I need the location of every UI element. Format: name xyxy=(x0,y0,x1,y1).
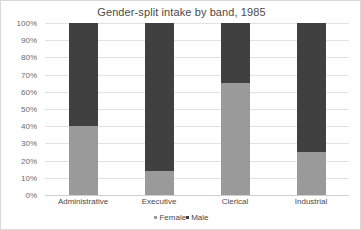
x-axis-tick-label: Clerical xyxy=(222,197,249,206)
chart-container: Gender-split intake by band, 1985 0%10%2… xyxy=(0,0,361,230)
bar-group-clerical[interactable] xyxy=(221,23,250,195)
y-axis-tick-label: 80% xyxy=(21,53,37,62)
y-axis-tick-label: 60% xyxy=(21,87,37,96)
chart-legend: FemaleMale xyxy=(1,213,361,222)
y-axis-tick-label: 90% xyxy=(21,36,37,45)
plot-area xyxy=(45,23,349,195)
gridline xyxy=(45,195,349,196)
y-axis-tick-label: 70% xyxy=(21,70,37,79)
x-axis-tick-label: Industrial xyxy=(295,197,327,206)
bar-group-executive[interactable] xyxy=(145,23,174,195)
bar-segment-female[interactable] xyxy=(145,171,174,195)
x-axis: AdministrativeExecutiveClericalIndustria… xyxy=(45,197,349,211)
bar-segment-female[interactable] xyxy=(297,152,326,195)
y-axis-tick-label: 100% xyxy=(17,19,37,28)
legend-item-male[interactable]: Male xyxy=(186,213,208,222)
y-axis-tick-label: 10% xyxy=(21,173,37,182)
legend-item-female[interactable]: Female xyxy=(154,213,186,222)
chart-title: Gender-split intake by band, 1985 xyxy=(1,6,361,18)
bar-segment-female[interactable] xyxy=(69,126,98,195)
bar-group-industrial[interactable] xyxy=(297,23,326,195)
y-axis-tick-label: 40% xyxy=(21,122,37,131)
bar-group-administrative[interactable] xyxy=(69,23,98,195)
bar-series-group xyxy=(45,23,349,195)
bar-segment-male[interactable] xyxy=(221,23,250,83)
y-axis: 0%10%20%30%40%50%60%70%80%90%100% xyxy=(1,23,41,195)
y-axis-tick-label: 20% xyxy=(21,156,37,165)
legend-label: Female xyxy=(159,213,186,222)
legend-swatch-icon xyxy=(154,216,157,219)
bar-segment-female[interactable] xyxy=(221,83,250,195)
bar-segment-male[interactable] xyxy=(69,23,98,126)
y-axis-tick-label: 50% xyxy=(21,105,37,114)
y-axis-tick-label: 0% xyxy=(25,191,37,200)
legend-label: Male xyxy=(191,213,208,222)
y-axis-tick-label: 30% xyxy=(21,139,37,148)
bar-segment-male[interactable] xyxy=(145,23,174,171)
bar-segment-male[interactable] xyxy=(297,23,326,152)
x-axis-tick-label: Executive xyxy=(142,197,177,206)
x-axis-tick-label: Administrative xyxy=(58,197,108,206)
legend-swatch-icon xyxy=(186,216,189,219)
